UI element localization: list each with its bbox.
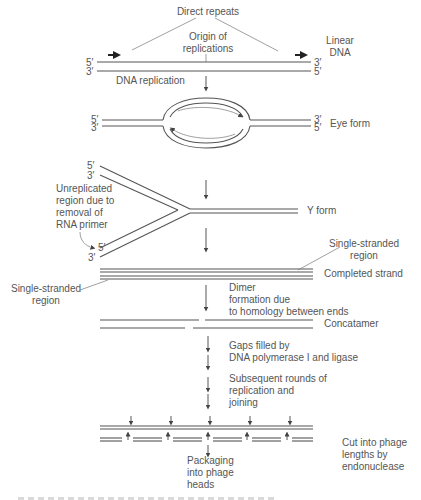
end-label: 5′ [314,122,322,133]
y-form-label: Y form [307,205,336,216]
y-form-stage: 5′ 3′ Y form Unreplicated region due to … [56,160,336,263]
end-label: 3′ [88,252,96,263]
rounds-label-line2: replication and [229,385,294,396]
eye-bubble-outer-bottom [163,126,250,148]
concatamer-stage: Dimer formation due to homology between … [100,282,379,329]
direct-repeat-arrow-right-icon [295,51,308,59]
direct-repeat-arrow-left-icon [108,51,121,59]
unreplicated-label-line1: Unreplicated [56,183,112,194]
processing-steps: Gaps filled by DNA polymerase I and liga… [208,336,358,408]
packaging-label-line2: into phage [187,467,234,478]
packaging-label-line3: heads [187,479,214,490]
dna-replication-label: DNA replication [116,75,185,86]
cut-label-line2: lengths by [342,449,388,460]
packaging-label-line1: Packaging [187,455,234,466]
linear-dna-label-line1: Linear [326,35,354,46]
eye-form-stage: 5′ 3′ 3′ 5′ Eye form [91,98,370,148]
direct-repeats-label: Direct repeats [177,6,239,17]
eye-bubble-outer-top [163,98,250,120]
replication-fork-arrow-icon [172,129,235,138]
unreplicated-label-line2: region due to [56,195,115,206]
origin-label-line2: replications [183,43,234,54]
linear-dna-stage: Direct repeats Origin of replications 5′… [86,6,355,89]
y-lower-arm-outer [100,213,190,257]
pointer-line [80,280,108,290]
end-label: 3′ [86,66,94,77]
concatamer-label: Concatamer [324,318,379,329]
origin-label-line1: Origin of [189,31,227,42]
linear-dna-label-line2: DNA [329,47,350,58]
single-stranded-left-line1: Single-stranded [11,283,81,294]
clipped-caption [18,494,278,500]
rounds-label-line3: joining [228,397,258,408]
cut-stage: Cut into phage lengths by endonuclease P… [100,416,407,490]
replication-diagram: Direct repeats Origin of replications 5′… [0,0,421,500]
eye-form-label: Eye form [330,118,370,129]
end-label: 3′ [91,122,99,133]
cut-label-line1: Cut into phage [342,437,407,448]
completed-strand-label: Completed strand [324,268,403,279]
gaps-label-line2: DNA polymerase I and ligase [229,352,358,363]
end-label: 5′ [314,66,322,77]
dimer-label-line2: formation due [229,294,291,305]
rounds-label-line1: Subsequent rounds of [229,373,327,384]
cut-arrow-down-icon [131,416,290,423]
pointer-line [298,247,340,270]
replication-fork-arrow-icon [178,107,241,116]
dimer-label-line1: Dimer [229,282,256,293]
cut-label-line3: endonuclease [342,461,405,472]
unreplicated-label-line3: removal of [56,207,103,218]
dimer-label-line3: to homology between ends [229,306,349,317]
gaps-label-line1: Gaps filled by [229,340,290,351]
end-label: 3′ [87,170,95,181]
single-stranded-right-line2: region [350,250,378,261]
pointer-arrow-icon [80,232,93,248]
end-label: 5′ [98,242,106,253]
unreplicated-label-line4: RNA primer [56,219,108,230]
cut-arrow-up-icon [128,434,287,440]
y-lower-arm-inner [100,210,178,248]
single-stranded-left-line2: region [32,295,60,306]
eye-bubble-inner-bottom [170,129,243,143]
completed-strand-stage: Single-stranded region Completed strand … [11,238,403,306]
